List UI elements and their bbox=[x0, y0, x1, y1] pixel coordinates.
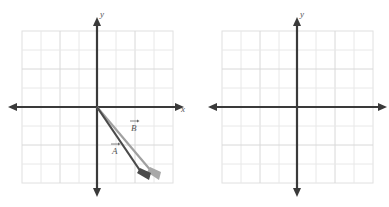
y-axis-label: y bbox=[99, 9, 104, 19]
y-axis-label: y bbox=[299, 9, 304, 19]
left-graph-panel: x y B A bbox=[0, 0, 195, 207]
vector-diagram-figure: x y B A bbox=[0, 0, 389, 207]
x-axis-arrow-left bbox=[208, 103, 217, 111]
vector-a-label: A bbox=[111, 146, 118, 156]
y-axis-arrow-down bbox=[93, 188, 101, 197]
vector-b-label: B bbox=[131, 123, 137, 133]
x-axis-label: x bbox=[180, 104, 185, 114]
y-axis-arrow-down bbox=[293, 188, 301, 197]
x-axis-arrow-right bbox=[378, 103, 387, 111]
x-axis-arrow-left bbox=[8, 103, 17, 111]
right-graph-panel: y bbox=[200, 0, 389, 207]
